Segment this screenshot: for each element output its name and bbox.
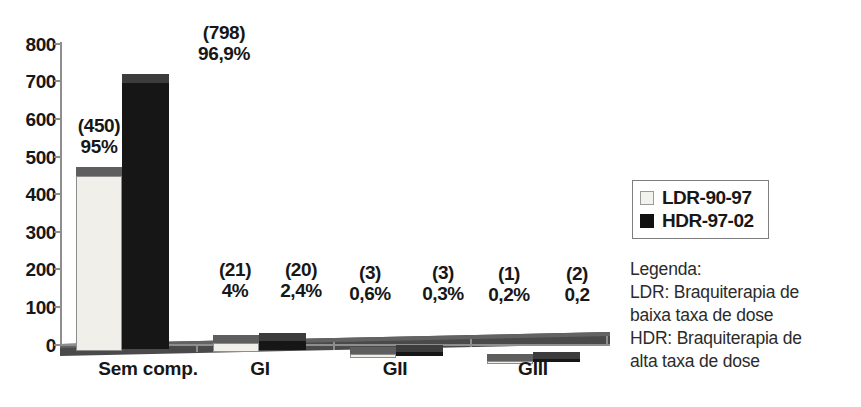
value-pct: 0,2 <box>532 284 622 305</box>
y-tick-label-0: 0 <box>10 336 56 355</box>
value-label-ldr-sem-comp: (450) 95% <box>52 115 146 158</box>
bar-ldr-gi <box>213 343 259 352</box>
y-tick-label-500: 500 <box>10 148 56 167</box>
x-axis-tick-2 <box>333 342 335 350</box>
y-axis-tick-400 <box>54 193 61 195</box>
bar-hdr-gi <box>259 341 306 350</box>
y-tick-label-300: 300 <box>10 223 56 242</box>
bar-chart: 800 700 600 500 400 300 200 100 0 (450) <box>0 0 615 407</box>
y-tick-label-200: 200 <box>10 260 56 279</box>
x-axis-tick-1 <box>196 344 198 352</box>
legend-item-ldr-label: LDR-90-97 <box>662 187 751 209</box>
y-tick-label-700: 700 <box>10 72 56 91</box>
legend-note-heading: Legenda: <box>630 258 855 281</box>
y-axis-labels: 800 700 600 500 400 300 200 100 0 <box>0 0 56 407</box>
value-label-hdr-giii: (2) 0,2 <box>532 263 622 306</box>
legend-item-ldr: LDR-90-97 <box>640 186 754 209</box>
legend-note-line-4: alta taxa de dose <box>630 350 855 373</box>
value-count: (450) <box>52 115 146 136</box>
value-label-hdr-sem-comp: (798) 96,9% <box>172 22 276 65</box>
value-count: (798) <box>172 22 276 43</box>
legend-note-line-3: HDR: Braquiterapia de <box>630 327 855 350</box>
y-axis-tick-700 <box>54 80 61 82</box>
chart-legend: LDR-90-97 HDR-97-02 <box>632 180 769 239</box>
x-category-label-gii: GII <box>340 358 450 380</box>
legend-note-line-1: LDR: Braquiterapia de <box>630 281 855 304</box>
bar-hdr-gii <box>396 352 443 356</box>
legend-item-hdr-label: HDR-97-02 <box>662 210 754 232</box>
x-axis-tick-3 <box>470 339 472 347</box>
x-axis-tick-4 <box>606 336 608 344</box>
legend-note-line-2: baixa taxa de dose <box>630 304 855 327</box>
value-pct: 95% <box>52 136 146 157</box>
legend-item-hdr: HDR-97-02 <box>640 209 754 232</box>
y-axis-tick-800 <box>54 43 61 45</box>
y-axis-tick-300 <box>54 231 61 233</box>
y-axis-tick-100 <box>54 306 61 308</box>
y-tick-label-800: 800 <box>10 35 56 54</box>
y-axis-tick-200 <box>54 268 61 270</box>
y-tick-label-600: 600 <box>10 110 56 129</box>
x-category-label-gi: GI <box>205 358 315 380</box>
light-square-swatch-icon <box>640 191 654 205</box>
legend-note: Legenda: LDR: Braquiterapia de baixa tax… <box>630 258 855 373</box>
bar-ldr-sem-comp <box>76 176 122 351</box>
y-tick-label-400: 400 <box>10 185 56 204</box>
value-pct: 96,9% <box>172 43 276 64</box>
value-count: (2) <box>532 263 622 284</box>
x-category-label-giii: GIII <box>478 358 588 380</box>
y-tick-label-100: 100 <box>10 298 56 317</box>
dark-square-swatch-icon <box>640 214 654 228</box>
